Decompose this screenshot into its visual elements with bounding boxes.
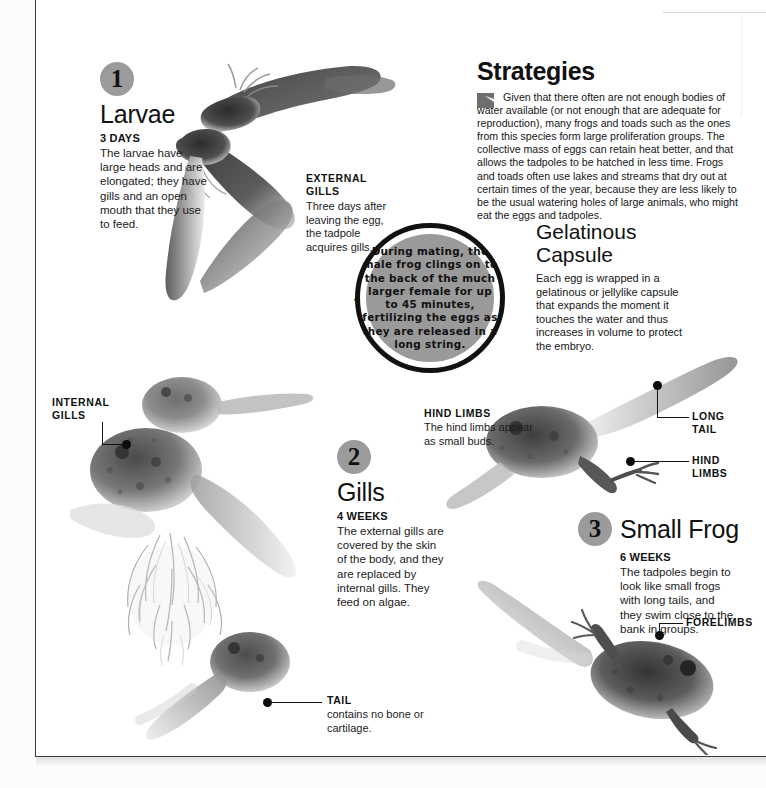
leader-long-tail-vertical <box>657 386 658 418</box>
step-body-gills: The external gills are covered by the sk… <box>337 524 445 609</box>
step-number-3: 3 <box>578 512 612 546</box>
callout-hind-limbs-center-body: The hind limbs appear as small buds. <box>424 421 540 448</box>
leader-long-tail-horizontal <box>657 417 689 418</box>
callout-hind-limbs-center-title: HIND LIMBS <box>424 407 540 420</box>
infographic-page: 1 Larvae 3 DAYS The larvae have large he… <box>0 0 766 788</box>
amazing-fact-badge: AMAZING FACT During mating, the male fro… <box>347 215 513 381</box>
leader-dot-forelimbs <box>655 631 664 640</box>
gelatinous-capsule-title-1: Gelatinous <box>536 220 686 243</box>
strategies-marker-icon <box>477 93 494 108</box>
step-duration-small-frog: 6 WEEKS <box>620 550 728 564</box>
callout-long-tail-title-1: LONG <box>692 410 752 423</box>
leader-dot-hind-limbs-right <box>626 457 635 466</box>
step-title-larvae: Larvae <box>100 100 220 128</box>
step-title-small-frog: Small Frog <box>620 515 739 543</box>
callout-long-tail-title-2: TAIL <box>692 423 752 436</box>
callout-long-tail: LONG TAIL <box>692 410 752 436</box>
callout-hind-limbs-center: HIND LIMBS The hind limbs appear as smal… <box>424 407 540 448</box>
callout-tail: TAIL contains no bone or cartilage. <box>327 694 427 735</box>
section-strategies: Strategies Given that there often are no… <box>477 58 742 222</box>
page-shadow <box>36 757 766 767</box>
page-border-left <box>35 0 36 757</box>
strategies-title: Strategies <box>477 58 742 85</box>
step-title-gills: Gills <box>337 478 452 506</box>
callout-external-gills-title-1: EXTERNAL <box>306 172 398 185</box>
leader-internal-gills-horizontal <box>102 444 124 445</box>
callout-forelimbs: FORELIMBS <box>686 616 766 629</box>
section-gelatinous-capsule: Gelatinous Capsule Each egg is wrapped i… <box>536 220 686 353</box>
step-number-2: 2 <box>337 440 371 474</box>
leader-hind-limbs-right-horizontal <box>633 461 689 462</box>
callout-tail-title: TAIL <box>327 694 427 707</box>
step-duration-gills: 4 WEEKS <box>337 509 452 523</box>
step-duration-larvae: 3 DAYS <box>100 131 220 145</box>
leader-tail-horizontal <box>272 702 322 703</box>
strategies-body-wrap: Given that there often are not enough bo… <box>477 91 742 222</box>
step-larvae: 1 Larvae 3 DAYS The larvae have large he… <box>100 62 220 231</box>
leader-forelimbs-horizontal <box>659 623 683 624</box>
callout-hind-limbs-right-title-2: LIMBS <box>692 467 752 480</box>
leader-dot-tail <box>263 698 272 707</box>
leader-internal-gills-vertical <box>102 422 103 445</box>
step-body-larvae: The larvae have large heads and are elon… <box>100 146 210 231</box>
gelatinous-capsule-body: Each egg is wrapped in a gelatinous or j… <box>536 272 686 353</box>
step-gills: 2 Gills 4 WEEKS The external gills are c… <box>337 440 452 609</box>
amazing-fact-text: During mating, the male frog clings on t… <box>361 245 499 351</box>
callout-forelimbs-title: FORELIMBS <box>686 616 766 629</box>
leader-dot-long-tail <box>653 381 662 390</box>
step-number-1: 1 <box>100 62 134 96</box>
strategies-body: Given that there often are not enough bo… <box>477 91 742 222</box>
callout-hind-limbs-right-title-1: HIND <box>692 454 752 467</box>
callout-internal-gills-title-1: INTERNAL <box>52 396 132 409</box>
callout-tail-body: contains no bone or cartilage. <box>327 708 427 735</box>
callout-external-gills-title-2: GILLS <box>306 185 398 198</box>
callout-hind-limbs-right: HIND LIMBS <box>692 454 752 480</box>
callout-internal-gills: INTERNAL GILLS <box>52 396 132 422</box>
leader-dot-internal-gills <box>122 440 131 449</box>
page-border-top-right <box>663 12 766 13</box>
gelatinous-capsule-title-2: Capsule <box>536 243 686 266</box>
callout-internal-gills-title-2: GILLS <box>52 409 132 422</box>
